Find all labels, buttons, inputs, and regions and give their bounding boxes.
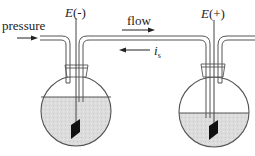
current-arrow (119, 48, 150, 53)
flow-label: flow (127, 13, 151, 28)
inlet-tube (40, 36, 70, 83)
pressure-label: pressure (2, 18, 46, 33)
right-stopper (201, 64, 225, 77)
flow-arrow (122, 28, 155, 33)
left-electrode-label: E(-) (64, 5, 86, 20)
pressure-arrow (17, 36, 38, 41)
current-label: is (154, 43, 161, 60)
right-electrode-label: E(+) (200, 6, 225, 21)
streaming-potential-diagram: pressure E(-) E(+) flow is (0, 0, 255, 156)
